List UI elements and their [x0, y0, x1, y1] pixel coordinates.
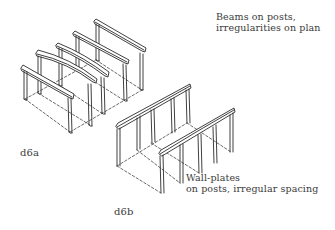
caption-d6b: Wall-plates on posts, irregular spacing: [186, 172, 318, 194]
caption-d6a-line1: Beams on posts,: [216, 11, 321, 22]
caption-d6a: Beams on posts, irregularities on plan: [216, 11, 321, 33]
figure-d6a-beams-on-posts: [21, 19, 146, 133]
caption-d6b-line2: on posts, irregular spacing: [186, 183, 318, 194]
d6a-beam-frame-3: [56, 43, 109, 114]
caption-d6b-line1: Wall-plates: [186, 172, 318, 183]
figure-tag-d6b: d6b: [114, 206, 133, 217]
timber-framing-drawing: [0, 0, 335, 230]
caption-d6a-line2: irregularities on plan: [216, 22, 321, 33]
figure-tag-d6a: d6a: [20, 147, 39, 158]
